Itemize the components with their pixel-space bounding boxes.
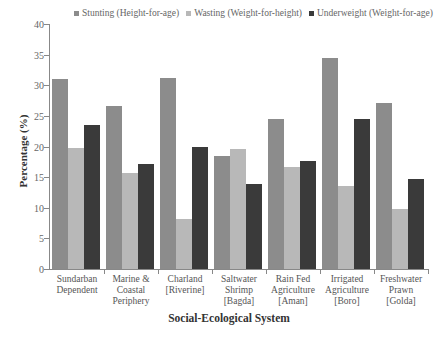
bar (284, 167, 300, 269)
y-tick-label: 10 (24, 202, 44, 213)
y-tick (44, 208, 49, 209)
y-tick-label: 40 (24, 19, 44, 30)
x-category-label: SaltwaterShrimp[Bagda] (212, 274, 266, 307)
chart-legend: Stunting (Height-for-age)Wasting (Weight… (74, 8, 433, 18)
bar (392, 209, 408, 269)
y-tick (44, 24, 49, 25)
y-tick (44, 147, 49, 148)
y-tick-label: 30 (24, 80, 44, 91)
legend-label: Underweight (Weight-for-age) (317, 8, 433, 18)
y-tick-label: 25 (24, 110, 44, 121)
x-category-label: Rain FedAgriculture[Aman] (266, 274, 320, 307)
y-tick-label: 0 (24, 264, 44, 275)
legend-item: Stunting (Height-for-age) (74, 8, 179, 18)
bar (214, 156, 230, 269)
y-tick (44, 177, 49, 178)
x-category-label: IrrigatedAgriculture[Boro] (320, 274, 374, 307)
y-tick (44, 55, 49, 56)
bar (322, 58, 338, 269)
y-tick-label: 35 (24, 49, 44, 60)
y-tick-label: 15 (24, 172, 44, 183)
bar (300, 161, 316, 269)
bar (122, 173, 138, 269)
y-tick (44, 269, 49, 270)
bar (160, 78, 176, 269)
x-category-label: Marine &CoastalPeriphery (104, 274, 158, 307)
bar (68, 148, 84, 269)
x-category-label: Charland[Riverine] (158, 274, 212, 296)
bar (354, 119, 370, 269)
y-tick-label: 5 (24, 233, 44, 244)
bar (376, 103, 392, 269)
x-tick (428, 269, 429, 274)
legend-swatch (186, 11, 191, 16)
y-tick-label: 20 (24, 141, 44, 152)
plot-area: 0510152025303540SundarbanDependentMarine… (49, 24, 428, 270)
bar (52, 79, 68, 269)
bar (138, 164, 154, 269)
x-category-label: FreshwaterPrawn[Golda] (374, 274, 428, 307)
bar (230, 149, 246, 269)
y-tick (44, 116, 49, 117)
bar (408, 179, 424, 269)
legend-swatch (309, 11, 314, 16)
legend-item: Underweight (Weight-for-age) (309, 8, 433, 18)
y-tick (44, 85, 49, 86)
bar (176, 219, 192, 269)
x-category-label: SundarbanDependent (50, 274, 104, 296)
y-tick (44, 238, 49, 239)
legend-swatch (74, 11, 79, 16)
bar (192, 147, 208, 269)
legend-item: Wasting (Weight-for-height) (186, 8, 302, 18)
bar (84, 125, 100, 269)
x-axis-label: Social-Ecological System (0, 312, 438, 324)
legend-label: Wasting (Weight-for-height) (194, 8, 302, 18)
bar (106, 106, 122, 269)
legend-label: Stunting (Height-for-age) (82, 8, 179, 18)
bar (246, 184, 262, 269)
bar (268, 119, 284, 269)
bar (338, 186, 354, 269)
